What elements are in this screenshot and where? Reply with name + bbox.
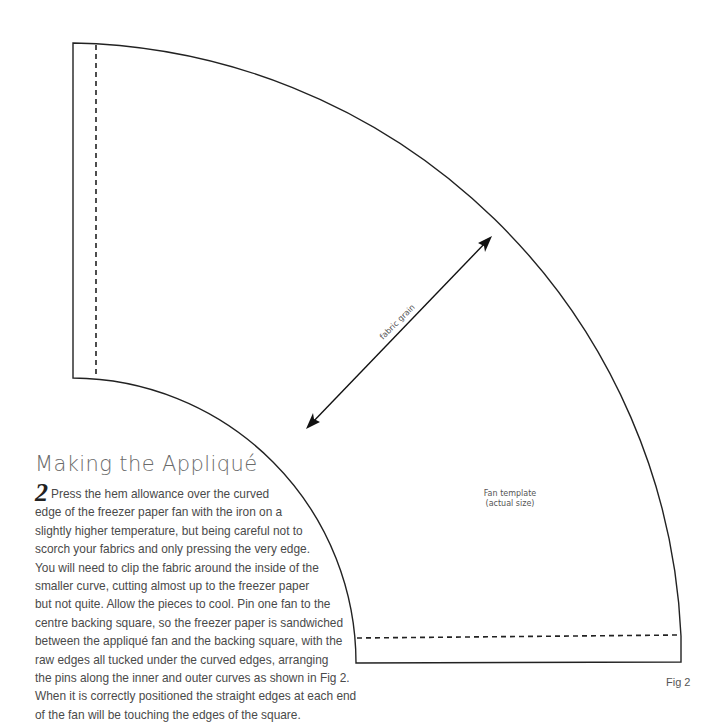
instruction-line: edge of the freezer paper fan with the i…	[35, 503, 335, 521]
instruction-line: the pins along the inner and outer curve…	[35, 669, 335, 687]
instruction-paragraph: 2Press the hem allowance over the curved…	[35, 484, 335, 724]
instruction-line: When it is correctly positioned the stra…	[35, 687, 335, 705]
figure-label: Fig 2	[666, 676, 690, 688]
section-heading: Making the Appliqué	[35, 452, 258, 476]
template-caption-size: (actual size)	[470, 499, 550, 509]
instruction-line: 2Press the hem allowance over the curved	[35, 484, 335, 503]
template-caption-title: Fan template	[470, 489, 550, 499]
instruction-line: raw edges all tucked under the curved ed…	[35, 651, 335, 669]
instruction-line: slightly higher temperature, but being c…	[35, 522, 335, 540]
instruction-line: scorch your fabrics and only pressing th…	[35, 540, 335, 558]
instruction-line-text: Press the hem allowance over the curved	[51, 487, 269, 501]
instruction-line: smaller curve, cutting almost up to the …	[35, 577, 335, 595]
template-caption: Fan template (actual size)	[470, 489, 550, 509]
fabric-grain-arrow-icon	[306, 236, 492, 429]
instruction-line: of the fan will be touching the edges of…	[35, 706, 335, 724]
instruction-line: but not quite. Allow the pieces to cool.…	[35, 595, 335, 613]
instruction-line: between the appliqué fan and the backing…	[35, 632, 335, 650]
instruction-line: You will need to clip the fabric around …	[35, 559, 335, 577]
instruction-line: centre backing square, so the freezer pa…	[35, 614, 335, 632]
bottom-seam-dashed-line	[357, 635, 680, 638]
